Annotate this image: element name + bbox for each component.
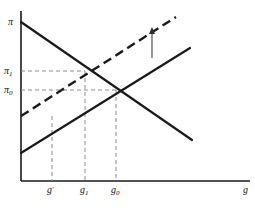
x-tick-label-g-prime: g′ [47, 184, 54, 195]
chart-curves [21, 17, 192, 153]
y-axis-top-label: π [8, 16, 14, 27]
x-tick-label-g1: g1 [80, 184, 89, 197]
economics-line-chart: π π1 π0 g′ g1 g0 g [0, 0, 255, 212]
x-axis-end-label: g [243, 184, 248, 195]
guide-lines [21, 71, 116, 181]
x-tick-label-g0: g0 [111, 184, 120, 197]
y-tick-label-pi1: π1 [4, 65, 13, 78]
downward-sloping-curve [21, 22, 192, 140]
chart-axes [21, 11, 250, 181]
y-tick-label-pi0: π0 [4, 84, 13, 97]
figure-container: π π1 π0 g′ g1 g0 g [0, 0, 255, 212]
